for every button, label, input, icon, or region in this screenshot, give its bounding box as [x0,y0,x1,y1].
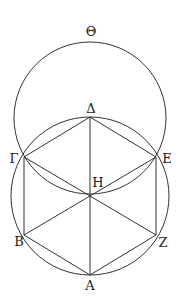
label-theta: Θ [86,25,97,38]
label-delta: Δ [86,102,95,115]
label-alpha: Α [85,279,94,292]
label-epsilon: Ε [162,152,172,165]
label-gamma: Γ [9,152,18,165]
label-zeta: Ζ [158,236,167,249]
label-eta: Η [92,176,103,189]
label-beta: Β [14,235,24,248]
geometry-figure [0,0,181,303]
